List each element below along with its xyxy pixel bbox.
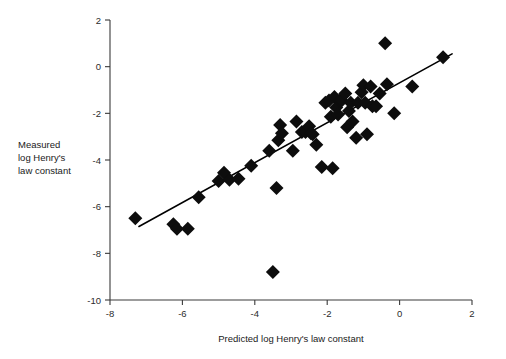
data-point-marker [387,106,401,120]
data-point-marker [192,190,206,204]
x-tick-label: -2 [323,308,331,319]
data-point-marker [270,181,284,195]
y-tick-label: 0 [96,61,101,72]
data-points-layer [128,36,450,279]
data-point-marker [405,80,419,94]
x-tick-label: 2 [469,308,474,319]
y-tick-label: -4 [93,155,101,166]
y-axis-title-line: log Henry's [18,152,65,163]
y-tick-label: -6 [93,201,101,212]
y-tick-label: -2 [93,108,101,119]
x-axis-title: Predicted log Henry's law constant [218,333,364,344]
y-tick-label: 2 [96,15,101,26]
axis-lines-layer [110,20,472,300]
plot-area-svg: 20-2-4-6-8-10-8-6-4-202 Predicted log He… [0,0,506,359]
data-point-marker [266,265,280,279]
data-point-marker [262,144,276,158]
data-point-marker [244,159,258,173]
data-point-marker [128,211,142,225]
data-point-marker [349,131,363,145]
y-tick-label: -8 [93,248,101,259]
y-tick-label: -10 [87,295,101,306]
scatter-chart-figure: 20-2-4-6-8-10-8-6-4-202 Predicted log He… [0,0,506,359]
axis-ticks-layer: 20-2-4-6-8-10-8-6-4-202 [87,15,474,320]
data-point-marker [181,222,195,236]
regression-line-layer [139,54,452,227]
y-axis-title-line: law constant [18,165,71,176]
x-tick-label: -4 [251,308,259,319]
data-point-marker [360,127,374,141]
y-axis-title-line: Measured [18,139,60,150]
data-point-marker [315,160,329,174]
axis-labels-layer: Predicted log Henry's law constantMeasur… [18,139,364,344]
x-tick-label: -8 [106,308,114,319]
regression-line [139,54,452,227]
x-tick-label: -6 [178,308,186,319]
data-point-marker [286,144,300,158]
data-point-marker [326,161,340,175]
x-tick-label: 0 [397,308,402,319]
data-point-marker [378,36,392,50]
